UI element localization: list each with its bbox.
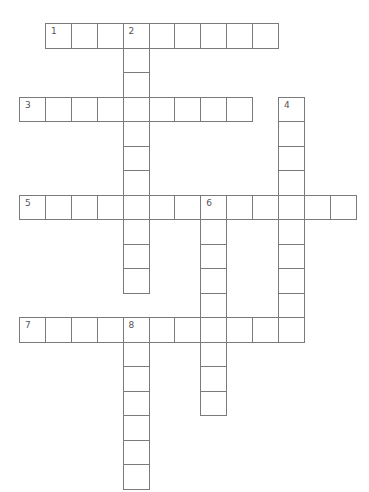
crossword-cell[interactable] — [278, 317, 305, 343]
clue-number: 5 — [25, 199, 31, 208]
crossword-cell[interactable] — [226, 317, 253, 343]
crossword-cell[interactable] — [304, 195, 331, 221]
crossword-cell[interactable] — [200, 366, 227, 392]
crossword-cell[interactable] — [123, 415, 150, 441]
crossword-cell[interactable] — [200, 268, 227, 294]
crossword-cell[interactable] — [278, 219, 305, 245]
crossword-cell[interactable] — [174, 317, 201, 343]
crossword-cell[interactable] — [149, 195, 176, 221]
crossword-cell[interactable] — [200, 97, 227, 123]
crossword-cell[interactable] — [123, 268, 150, 294]
crossword-cell[interactable]: 8 — [123, 317, 150, 343]
crossword-cell[interactable] — [123, 170, 150, 196]
crossword-cell[interactable] — [226, 195, 253, 221]
crossword-cell[interactable] — [226, 97, 253, 123]
crossword-cell[interactable] — [278, 146, 305, 172]
crossword-cell[interactable] — [200, 219, 227, 245]
crossword-cell[interactable] — [226, 23, 253, 49]
crossword-cell[interactable] — [71, 97, 98, 123]
crossword-cell[interactable] — [330, 195, 357, 221]
crossword-cell[interactable]: 7 — [19, 317, 46, 343]
crossword-cell[interactable] — [123, 391, 150, 417]
crossword-cell[interactable] — [200, 342, 227, 368]
crossword-cell[interactable] — [71, 195, 98, 221]
crossword-cell[interactable] — [278, 268, 305, 294]
clue-number: 3 — [25, 101, 31, 110]
crossword-cell[interactable] — [97, 195, 124, 221]
crossword-cell[interactable] — [123, 440, 150, 466]
crossword-cell[interactable]: 2 — [123, 23, 150, 49]
crossword-cell[interactable] — [97, 23, 124, 49]
crossword-cell[interactable] — [149, 23, 176, 49]
clue-number: 2 — [129, 27, 135, 36]
crossword-cell[interactable] — [97, 97, 124, 123]
crossword-cell[interactable] — [252, 195, 279, 221]
crossword-cell[interactable]: 5 — [19, 195, 46, 221]
crossword-cell[interactable] — [149, 317, 176, 343]
crossword-cell[interactable] — [278, 121, 305, 147]
clue-number: 4 — [284, 101, 290, 110]
crossword-cell[interactable] — [200, 23, 227, 49]
crossword-cell[interactable] — [200, 244, 227, 270]
crossword-cell[interactable] — [71, 23, 98, 49]
crossword-cell[interactable]: 4 — [278, 97, 305, 123]
crossword-cell[interactable] — [123, 97, 150, 123]
crossword-cell[interactable] — [278, 195, 305, 221]
clue-number: 1 — [51, 27, 57, 36]
crossword-cell[interactable] — [200, 317, 227, 343]
crossword-cell[interactable] — [123, 48, 150, 74]
clue-number: 7 — [25, 321, 31, 330]
crossword-cell[interactable] — [278, 170, 305, 196]
crossword-cell[interactable] — [200, 293, 227, 319]
crossword-cell[interactable] — [174, 195, 201, 221]
crossword-cell[interactable] — [123, 219, 150, 245]
crossword-cell[interactable] — [123, 342, 150, 368]
crossword-cell[interactable]: 1 — [45, 23, 72, 49]
clue-number: 6 — [206, 199, 212, 208]
crossword-grid: 12345678 — [0, 0, 369, 492]
crossword-cell[interactable] — [71, 317, 98, 343]
crossword-cell[interactable] — [45, 97, 72, 123]
crossword-cell[interactable] — [123, 244, 150, 270]
crossword-cell[interactable] — [45, 195, 72, 221]
crossword-cell[interactable] — [174, 97, 201, 123]
crossword-cell[interactable] — [123, 366, 150, 392]
crossword-cell[interactable] — [123, 464, 150, 490]
crossword-cell[interactable] — [45, 317, 72, 343]
crossword-cell[interactable] — [97, 317, 124, 343]
crossword-cell[interactable] — [123, 146, 150, 172]
crossword-cell[interactable]: 3 — [19, 97, 46, 123]
crossword-cell[interactable] — [123, 72, 150, 98]
crossword-cell[interactable] — [252, 317, 279, 343]
crossword-cell[interactable] — [278, 293, 305, 319]
crossword-cell[interactable] — [252, 23, 279, 49]
crossword-cell[interactable] — [278, 244, 305, 270]
crossword-cell[interactable] — [174, 23, 201, 49]
crossword-cell[interactable] — [123, 121, 150, 147]
crossword-cell[interactable] — [200, 391, 227, 417]
crossword-cell[interactable] — [149, 97, 176, 123]
crossword-cell[interactable]: 6 — [200, 195, 227, 221]
clue-number: 8 — [129, 321, 135, 330]
crossword-cell[interactable] — [123, 195, 150, 221]
